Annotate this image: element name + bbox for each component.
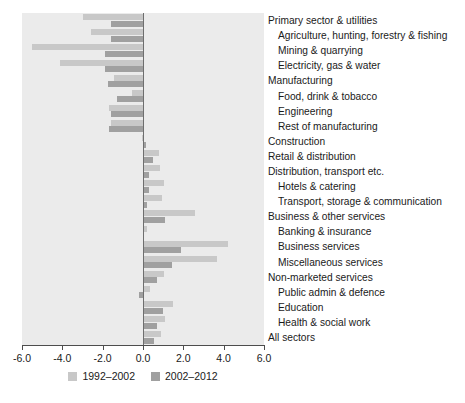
bar xyxy=(143,331,161,337)
x-axis-tick xyxy=(103,345,104,350)
category-label: Electricity, gas & water xyxy=(278,60,380,71)
bar xyxy=(114,75,143,81)
category-label-list: Primary sector & utilitiesAgriculture, h… xyxy=(268,13,464,353)
chart-legend: 1992–2002 2002–2012 xyxy=(22,368,264,384)
bar xyxy=(143,262,172,268)
category-label: Banking & insurance xyxy=(278,226,371,237)
bar xyxy=(143,247,181,253)
category-label: Construction xyxy=(268,136,325,147)
category-label: Hotels & catering xyxy=(278,181,356,192)
x-axis-tick xyxy=(62,345,63,350)
bar xyxy=(111,21,143,27)
category-label: Business & other services xyxy=(268,211,385,222)
x-axis-tick xyxy=(264,345,265,350)
x-axis-tick-label: -2.0 xyxy=(83,352,123,365)
bar xyxy=(109,105,143,111)
bar xyxy=(111,120,143,126)
x-axis-tick xyxy=(143,345,144,350)
legend-item-1992-2002: 1992–2002 xyxy=(68,370,135,382)
bar xyxy=(143,157,153,163)
bar xyxy=(143,165,160,171)
category-label: Miscellaneous services xyxy=(278,257,383,268)
x-axis-tick xyxy=(183,345,184,350)
category-label: Public admin & defence xyxy=(278,287,385,298)
zero-axis-line xyxy=(143,13,144,345)
bar xyxy=(143,217,165,223)
category-label: Manufacturing xyxy=(268,75,333,86)
legend-item-2002-2012: 2002–2012 xyxy=(151,370,218,382)
category-label: Mining & quarrying xyxy=(278,45,363,56)
bar-chart: -6.0-4.0-2.00.02.04.06.0 Primary sector … xyxy=(0,0,465,403)
x-axis-tick-label: -4.0 xyxy=(42,352,82,365)
bar xyxy=(60,60,143,66)
category-label: Agriculture, hunting, forestry & fishing xyxy=(278,30,447,41)
bar xyxy=(143,256,217,262)
bar xyxy=(105,66,143,72)
category-label: Food, drink & tobacco xyxy=(278,91,377,102)
legend-label: 2002–2012 xyxy=(165,370,218,382)
x-axis-tick-label: 4.0 xyxy=(204,352,244,365)
bar xyxy=(111,111,143,117)
x-axis-tick-label: 0.0 xyxy=(123,352,163,365)
x-axis-tick xyxy=(224,345,225,350)
category-label: Primary sector & utilities xyxy=(268,15,377,26)
plot-panel xyxy=(22,13,264,345)
bar xyxy=(143,180,164,186)
x-axis-tick xyxy=(22,345,23,350)
category-label: Engineering xyxy=(278,106,332,117)
category-label: Rest of manufacturing xyxy=(278,121,378,132)
bar xyxy=(143,286,150,292)
bar xyxy=(117,96,143,102)
category-label: All sectors xyxy=(268,332,315,343)
bar xyxy=(109,126,143,132)
category-label: Distribution, transport etc. xyxy=(268,166,384,177)
category-label: Business services xyxy=(278,241,360,252)
x-axis-tick-label: 6.0 xyxy=(244,352,284,365)
bar xyxy=(132,90,143,96)
bar xyxy=(143,323,157,329)
bar xyxy=(143,150,159,156)
bar xyxy=(143,210,195,216)
bar xyxy=(143,241,228,247)
bar xyxy=(111,36,143,42)
bar xyxy=(83,14,144,20)
bar xyxy=(143,195,162,201)
x-axis-tick-label: 2.0 xyxy=(163,352,203,365)
legend-swatch-icon xyxy=(68,372,77,381)
category-label: Education xyxy=(278,302,323,313)
category-label: Non-marketed services xyxy=(268,272,373,283)
bar xyxy=(105,51,143,57)
category-label: Transport, storage & communication xyxy=(278,196,442,207)
x-axis-tick-label: -6.0 xyxy=(2,352,42,365)
category-label: Retail & distribution xyxy=(268,151,356,162)
bar xyxy=(143,277,157,283)
bar xyxy=(108,81,143,87)
legend-swatch-icon xyxy=(151,372,160,381)
bar xyxy=(143,271,164,277)
bar xyxy=(32,44,143,50)
category-label: Health & social work xyxy=(278,317,370,328)
bar xyxy=(143,316,165,322)
bar xyxy=(91,29,143,35)
bar xyxy=(143,308,163,314)
legend-label: 1992–2002 xyxy=(82,370,135,382)
bar xyxy=(143,301,173,307)
bar xyxy=(143,338,154,344)
